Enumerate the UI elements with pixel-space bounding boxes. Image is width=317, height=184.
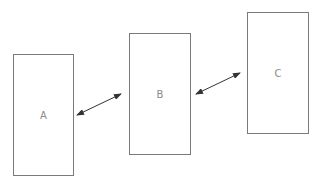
arrow-a-b-icon (77, 94, 121, 115)
connectors-layer (0, 0, 317, 184)
arrow-b-c-icon (196, 73, 240, 94)
